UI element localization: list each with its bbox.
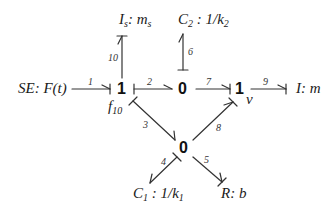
bond-9 bbox=[251, 84, 286, 94]
bond-number-5: 5 bbox=[204, 155, 209, 165]
inertia-s-label: Is: ms bbox=[119, 12, 151, 29]
bond-2 bbox=[134, 84, 172, 94]
flow-f10-label: f10 bbox=[108, 99, 122, 116]
junction-0-bottom: 0 bbox=[179, 140, 188, 156]
bond-number-6: 6 bbox=[188, 47, 193, 57]
bond-5 bbox=[193, 157, 226, 186]
bond-lines bbox=[0, 0, 336, 213]
source-effort-label: SE: F(t) bbox=[18, 81, 67, 96]
bond-number-1: 1 bbox=[88, 77, 93, 87]
inertia-label: I: m bbox=[296, 81, 321, 96]
bond-number-7: 7 bbox=[206, 77, 211, 87]
bond-7 bbox=[196, 84, 230, 94]
bond-3 bbox=[129, 97, 175, 140]
bond-10 bbox=[117, 36, 127, 78]
bond-6 bbox=[178, 34, 188, 70]
bond-number-9: 9 bbox=[263, 77, 268, 87]
bond-number-10: 10 bbox=[108, 53, 118, 63]
bond-number-8: 8 bbox=[216, 123, 221, 133]
capacitor-1-label: C1 : 1/k1 bbox=[133, 186, 184, 203]
bond-8 bbox=[193, 98, 237, 140]
bond-number-2: 2 bbox=[147, 77, 152, 87]
junction-1-left: 1 bbox=[117, 81, 126, 97]
junction-0-top: 0 bbox=[178, 81, 187, 97]
resistor-label: R: b bbox=[221, 186, 246, 201]
bond-number-4: 4 bbox=[161, 157, 166, 167]
capacitor-2-label: C2 : 1/k2 bbox=[178, 12, 229, 29]
bond-graph-diagram: SE: F(t) Is: ms C2 : 1/k2 I: m C1 : 1/k1… bbox=[0, 0, 336, 213]
bond-number-3: 3 bbox=[143, 120, 148, 130]
velocity-v-label: v bbox=[246, 92, 253, 107]
junction-1-right: 1 bbox=[235, 81, 244, 97]
